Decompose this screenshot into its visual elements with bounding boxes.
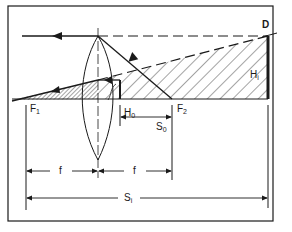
label-si-sub: i bbox=[131, 197, 133, 204]
focal-ray-arrow-icon bbox=[127, 51, 138, 61]
label-f2-sub: 2 bbox=[183, 108, 187, 115]
label-d-text: D bbox=[262, 19, 269, 30]
chief-ray-arrow-icon bbox=[50, 86, 60, 93]
frame-border bbox=[8, 6, 273, 221]
label-s0-main: S bbox=[156, 121, 163, 132]
hatched-image-region bbox=[98, 36, 268, 99]
label-si: Si bbox=[124, 193, 132, 204]
label-f2: F2 bbox=[177, 104, 187, 115]
diagram-canvas bbox=[0, 0, 292, 232]
label-hi-sub: i bbox=[257, 74, 259, 81]
label-f-right-text: f bbox=[133, 165, 136, 176]
label-hi: Hi bbox=[250, 70, 259, 81]
lens-diagram: D F1 F2 H0 Hi S0 f f Si bbox=[0, 0, 292, 232]
parallel-ray-arrow-icon bbox=[52, 32, 62, 40]
label-s0-sub: 0 bbox=[163, 126, 167, 133]
label-f1: F1 bbox=[30, 104, 40, 115]
label-f1-sub: 1 bbox=[36, 108, 40, 115]
label-f-right: f bbox=[133, 166, 136, 176]
label-d: D bbox=[262, 20, 269, 30]
label-si-main: S bbox=[124, 192, 131, 203]
label-h0: H0 bbox=[124, 108, 135, 119]
label-s0: S0 bbox=[156, 122, 167, 133]
label-h0-sub: 0 bbox=[131, 112, 135, 119]
label-f-left: f bbox=[59, 166, 62, 176]
label-f-left-text: f bbox=[59, 165, 62, 176]
